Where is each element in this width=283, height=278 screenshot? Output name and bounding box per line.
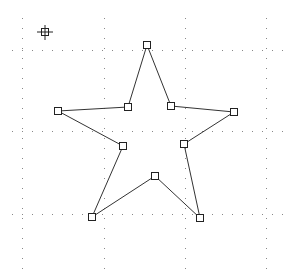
grid-dot — [22, 28, 23, 29]
grid-dot — [22, 131, 23, 132]
grid-dot — [62, 214, 63, 215]
grid-dot — [22, 178, 23, 179]
grid-dot — [212, 50, 213, 51]
grid-dot — [22, 198, 23, 199]
vertex-handle[interactable] — [120, 143, 127, 150]
grid-dot — [272, 131, 273, 132]
grid-dot — [252, 50, 253, 51]
grid-dot — [72, 214, 73, 215]
grid-dot — [185, 198, 186, 199]
grid-dot — [102, 214, 103, 215]
grid-dot — [266, 78, 267, 79]
grid-dot — [42, 131, 43, 132]
grid-dot — [22, 58, 23, 59]
grid-dot — [22, 88, 23, 89]
vertex-handle[interactable] — [168, 103, 175, 110]
grid-dot — [22, 138, 23, 139]
grid-dot — [172, 131, 173, 132]
grid-dot — [104, 48, 105, 49]
vertex-handle[interactable] — [144, 42, 151, 49]
grid-dot — [182, 50, 183, 51]
star-polygon[interactable] — [58, 45, 234, 218]
grid-dot — [266, 258, 267, 259]
grid-dot — [152, 50, 153, 51]
grid-dot — [22, 238, 23, 239]
grid-dot — [32, 50, 33, 51]
grid-dot — [22, 214, 23, 215]
grid-dot — [42, 214, 43, 215]
grid-dot — [82, 131, 83, 132]
grid-dot — [104, 168, 105, 169]
grid-dot — [212, 131, 213, 132]
grid-dot — [102, 50, 103, 51]
grid-dot — [104, 218, 105, 219]
grid-dot — [266, 148, 267, 149]
grid-dot — [22, 218, 23, 219]
grid-dot — [104, 178, 105, 179]
crosshair-move-icon — [37, 25, 53, 40]
vertex-handle[interactable] — [197, 215, 204, 222]
grid-dot — [266, 188, 267, 189]
grid-dot — [104, 118, 105, 119]
grid-dot — [104, 138, 105, 139]
grid-dot — [282, 214, 283, 215]
grid-dot — [22, 68, 23, 69]
grid-dot — [266, 228, 267, 229]
vertex-handle[interactable] — [89, 214, 96, 221]
grid-dot — [272, 214, 273, 215]
grid-dot — [262, 214, 263, 215]
grid-dot — [22, 38, 23, 39]
grid-dot — [266, 128, 267, 129]
grid-dot — [104, 18, 105, 19]
grid-dot — [182, 131, 183, 132]
grid-dot — [185, 178, 186, 179]
grid-dot — [185, 28, 186, 29]
grid-dot — [242, 50, 243, 51]
grid-dot — [185, 228, 186, 229]
grid-dot — [22, 118, 23, 119]
grid-dot — [112, 131, 113, 132]
vertex-handle[interactable] — [152, 173, 159, 180]
grid-dot — [185, 88, 186, 89]
grid-dot — [92, 131, 93, 132]
grid-dot — [162, 214, 163, 215]
grid-dot — [22, 128, 23, 129]
grid-dot — [104, 88, 105, 89]
grid-dot — [72, 50, 73, 51]
grid-dot — [262, 50, 263, 51]
grid-dot — [112, 214, 113, 215]
grid-dot — [185, 38, 186, 39]
grid-dot — [202, 50, 203, 51]
grid-dot — [142, 50, 143, 51]
grid-dot — [185, 128, 186, 129]
grid-dot — [104, 148, 105, 149]
grid-dot — [132, 214, 133, 215]
grid-dot — [185, 218, 186, 219]
grid-dot — [266, 248, 267, 249]
drawing-canvas[interactable] — [0, 0, 283, 278]
grid-dot — [232, 131, 233, 132]
grid-dot — [142, 131, 143, 132]
grid-dot — [266, 68, 267, 69]
grid-dot — [122, 214, 123, 215]
grid-dot — [122, 50, 123, 51]
grid-dot — [104, 248, 105, 249]
vertex-handle[interactable] — [55, 108, 62, 115]
grid-dot — [104, 228, 105, 229]
grid-dot — [222, 50, 223, 51]
grid-dot — [104, 158, 105, 159]
grid-dot — [152, 131, 153, 132]
grid-dot — [185, 238, 186, 239]
grid-dot — [266, 218, 267, 219]
grid-dot — [185, 248, 186, 249]
grid-dot — [182, 214, 183, 215]
grid-dot — [82, 214, 83, 215]
vertex-handle[interactable] — [125, 104, 132, 111]
grid-dot — [22, 18, 23, 19]
grid-dot — [22, 50, 23, 51]
grid-dot — [162, 131, 163, 132]
grid-dot — [232, 50, 233, 51]
vertex-handle[interactable] — [231, 109, 238, 116]
grid-dot — [266, 208, 267, 209]
vertex-handle[interactable] — [181, 141, 188, 148]
